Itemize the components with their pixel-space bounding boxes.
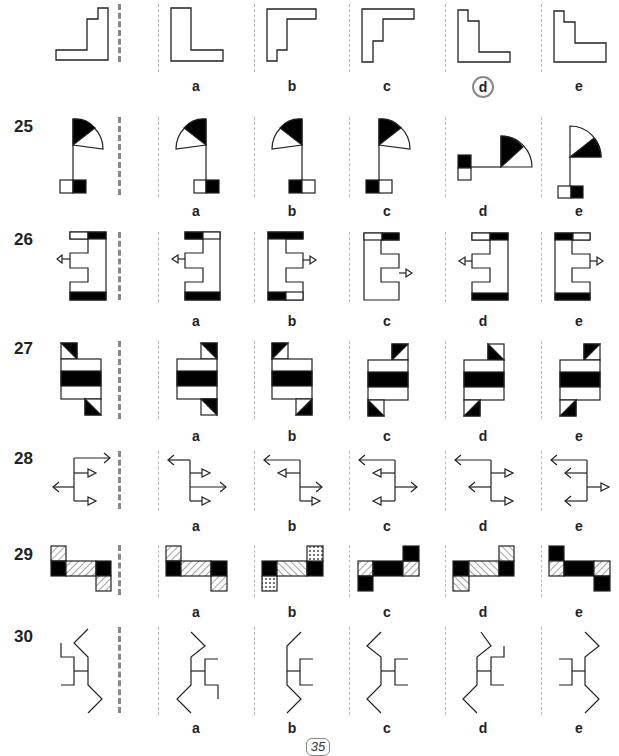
option-label-a[interactable]: a	[186, 78, 206, 94]
option-label-c[interactable]: c	[377, 518, 397, 534]
option-label-d[interactable]: d	[473, 203, 493, 219]
option-label-b[interactable]: b	[282, 604, 302, 620]
option-label-c[interactable]: c	[377, 78, 397, 94]
question-row-26: 26	[0, 220, 619, 325]
question-row-30: 30	[0, 623, 619, 738]
option-label-b[interactable]: b	[282, 203, 302, 219]
option-label-e[interactable]: e	[569, 720, 589, 736]
page-number: 35	[306, 738, 330, 756]
flag-figures	[0, 105, 619, 220]
hatched-block-figures	[0, 533, 619, 623]
option-label-c[interactable]: c	[377, 203, 397, 219]
striped-box-figures	[0, 325, 619, 433]
option-label-e[interactable]: e	[569, 78, 589, 94]
question-row-24: a b c d e	[0, 0, 619, 105]
option-label-a[interactable]: a	[186, 604, 206, 620]
question-figure	[0, 0, 619, 105]
option-label-d-circled-answer[interactable]: d	[472, 76, 494, 98]
option-label-a[interactable]: a	[186, 203, 206, 219]
option-label-d[interactable]: d	[473, 720, 493, 736]
question-row-25: 25	[0, 105, 619, 220]
option-label-c[interactable]: c	[377, 720, 397, 736]
option-label-b[interactable]: b	[282, 518, 302, 534]
question-row-27: 27	[0, 325, 619, 433]
option-label-c[interactable]: c	[377, 604, 397, 620]
option-label-e[interactable]: e	[569, 518, 589, 534]
zigzag-figures	[0, 623, 619, 738]
option-label-a[interactable]: a	[186, 720, 206, 736]
e-bracket-figures	[0, 220, 619, 325]
option-label-a[interactable]: a	[186, 518, 206, 534]
arrow-tree-figures	[0, 433, 619, 533]
question-row-28: 28	[0, 433, 619, 533]
option-label-e[interactable]: e	[569, 203, 589, 219]
option-label-e[interactable]: e	[569, 604, 589, 620]
option-label-d[interactable]: d	[473, 604, 493, 620]
option-label-b[interactable]: b	[282, 720, 302, 736]
option-label-d[interactable]: d	[473, 518, 493, 534]
option-label-b[interactable]: b	[282, 78, 302, 94]
question-row-29: 29	[0, 533, 619, 623]
